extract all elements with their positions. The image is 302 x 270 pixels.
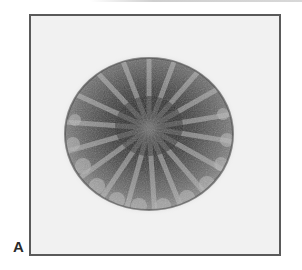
- panel-label: A: [13, 238, 24, 255]
- micrograph-panel: [29, 14, 281, 256]
- cell-cluster-image: [31, 16, 279, 254]
- top-divider: [90, 0, 302, 2]
